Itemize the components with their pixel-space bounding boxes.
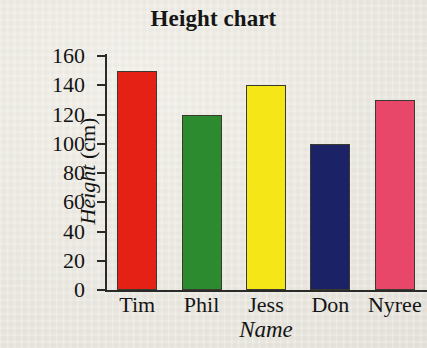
bar-nyree	[375, 100, 415, 290]
bar-phil	[182, 115, 222, 291]
bar-jess	[246, 85, 286, 290]
y-axis-title-unit: (cm)	[75, 118, 100, 165]
plot-area	[105, 56, 427, 290]
x-axis-tick-label: Don	[298, 294, 362, 316]
y-axis-title-italic: Height	[75, 165, 100, 225]
x-axis-title: Name	[105, 317, 427, 343]
bar-don	[310, 144, 350, 290]
x-axis-tick-label: Jess	[234, 294, 298, 316]
bar-chart-figure: Height chart 020406080100120140160 TimPh…	[0, 0, 427, 348]
chart-title: Height chart	[0, 6, 427, 32]
y-axis-title: Height (cm)	[75, 71, 101, 271]
y-axis-tick-label: 160	[52, 45, 85, 67]
bar-tim	[117, 71, 157, 290]
x-axis-tick-label: Phil	[169, 294, 233, 316]
x-axis-tick-label: Tim	[105, 294, 169, 316]
x-axis-tick-label: Nyree	[363, 294, 427, 316]
y-axis-tick-label: 0	[74, 279, 85, 301]
